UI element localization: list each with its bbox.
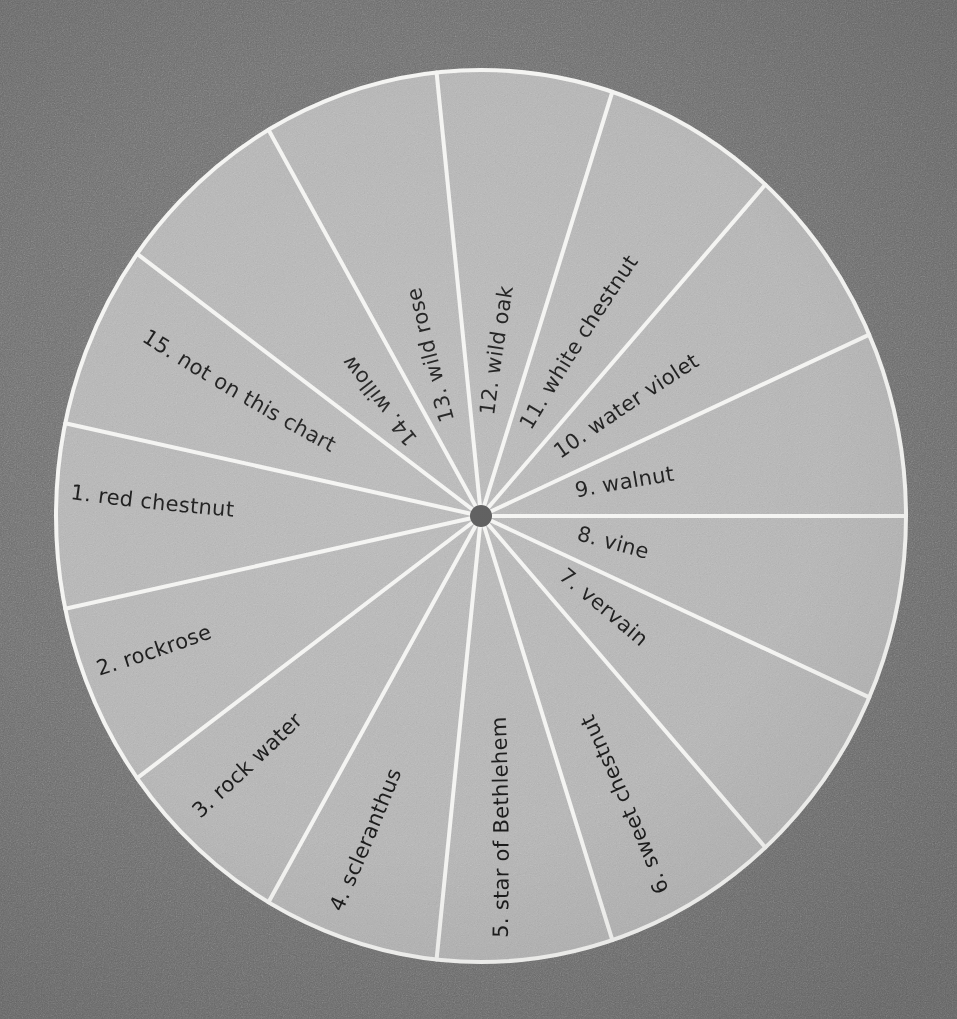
wheel-chart-root: 1. red chestnut2. rockrose3. rock water4… [0,0,957,1019]
wheel-center-hub[interactable] [470,505,492,527]
sector-label-5: 5. star of Bethlehem [487,716,514,938]
pie-wheel-diagram: 1. red chestnut2. rockrose3. rock water4… [0,0,957,1019]
